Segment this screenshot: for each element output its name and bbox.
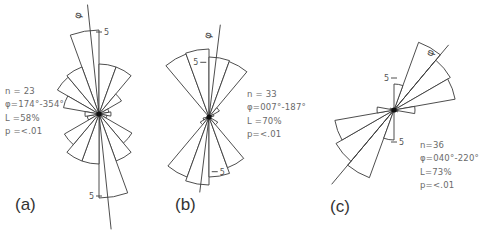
stat-n: n = 23 xyxy=(5,85,64,98)
stats-panel-b: n = 33 φ=007°-187° L =70% p=<.01 xyxy=(247,88,306,141)
scale-label: 5 xyxy=(104,28,109,37)
stat-phi: φ=007°-187° xyxy=(247,101,306,114)
stat-l: L=73% xyxy=(420,166,479,179)
stat-phi: φ=040°-220° xyxy=(420,152,479,165)
rose-center xyxy=(206,114,211,119)
stat-p: p=<.01 xyxy=(420,179,479,192)
scale-label: 5 xyxy=(384,74,389,83)
rose-center xyxy=(96,111,101,116)
stat-phi: φ=174°-354° xyxy=(5,98,64,111)
panel-label-a: (a) xyxy=(15,195,36,215)
scale-label: 5 xyxy=(193,58,198,67)
rose-diagram-a: φ55 xyxy=(57,5,131,230)
scale-label: 5 xyxy=(89,192,94,201)
phi-axis-label: φ xyxy=(71,10,84,20)
rose-diagram-b: φ55 xyxy=(166,25,247,193)
stat-l: L =70% xyxy=(247,115,306,128)
phi-axis-label: φ xyxy=(201,30,214,40)
stat-n: n=36 xyxy=(420,139,479,152)
rose-center xyxy=(391,107,396,112)
stat-p: p =<.01 xyxy=(5,125,64,138)
stat-n: n = 33 xyxy=(247,88,306,101)
panel-label-b: (b) xyxy=(175,195,196,215)
stat-l: L =58% xyxy=(5,112,64,125)
scale-label: 5 xyxy=(399,138,404,147)
rose-diagrams: φ55φ55φ55 xyxy=(0,0,489,231)
scale-label: 5 xyxy=(220,168,225,177)
panel-label-c: (c) xyxy=(330,197,350,217)
stat-p: p=<.01 xyxy=(247,128,306,141)
stats-panel-c: n=36 φ=040°-220° L=73% p=<.01 xyxy=(420,139,479,192)
stats-panel-a: n = 23 φ=174°-354° L =58% p =<.01 xyxy=(5,85,64,138)
